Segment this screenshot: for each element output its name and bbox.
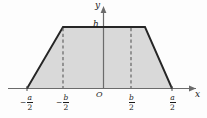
- trapezoid-region: [27, 27, 172, 89]
- origin-label: O: [96, 91, 103, 99]
- tick-label-left-outer-sign: −: [20, 99, 26, 107]
- tick-label-left-inner-denominator: 2: [63, 104, 68, 112]
- tick-label-right-outer: a 2: [169, 94, 176, 111]
- y-axis-label: y: [95, 1, 100, 10]
- tick-label-left-outer-denominator: 2: [27, 104, 32, 112]
- x-axis-label: x: [195, 90, 200, 99]
- tick-label-left-inner-numerator: b: [63, 94, 69, 102]
- tick-label-right-inner-denominator: 2: [129, 104, 134, 112]
- y-axis-arrowhead: [101, 6, 107, 13]
- tick-label-left-outer: − a 2: [20, 94, 33, 111]
- tick-label-right-outer-denominator: 2: [170, 104, 175, 112]
- tick-label-right-outer-numerator: a: [170, 94, 175, 102]
- tick-label-left-outer-numerator: a: [27, 94, 32, 102]
- tick-label-right-inner: b 2: [128, 94, 135, 111]
- height-label: h: [93, 20, 99, 29]
- tick-label-right-inner-numerator: b: [129, 94, 135, 102]
- figure-canvas: y x h O − a 2 − b 2 b 2 a: [0, 0, 207, 118]
- tick-label-left-inner: − b 2: [56, 94, 69, 111]
- tick-label-left-inner-sign: −: [56, 99, 62, 107]
